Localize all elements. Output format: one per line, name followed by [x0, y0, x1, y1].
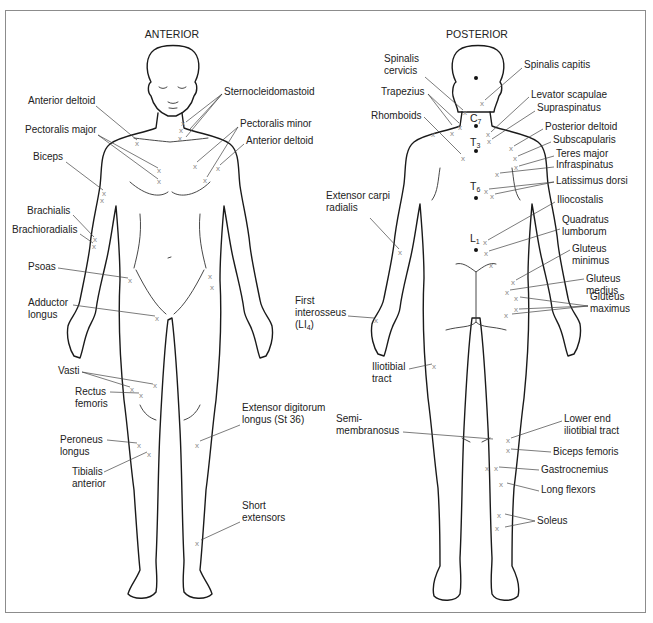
vertebra-label: L1	[470, 232, 480, 245]
muscle-label-text: Pectoralis minor	[240, 118, 312, 129]
trigger-point-mark: x	[203, 176, 207, 185]
muscle-label-text: Biceps	[33, 151, 63, 162]
muscle-label-text: Iliotibial	[372, 361, 405, 372]
leader-line	[511, 421, 562, 438]
trigger-point-mark: x	[458, 123, 462, 132]
muscle-label-text: Spinalis capitis	[524, 59, 590, 70]
label-anterior-deltoid-right: Anterior deltoidx	[216, 135, 313, 173]
leader-line	[409, 364, 432, 369]
leader-line	[186, 94, 222, 137]
muscle-label-text: Teres major	[556, 148, 609, 159]
leader-line	[96, 106, 137, 140]
leader-line	[428, 94, 452, 125]
trigger-point-mark: x	[483, 238, 487, 247]
leader-line	[505, 514, 535, 521]
leader-line	[512, 306, 588, 314]
muscle-label-text: Infraspinatus	[556, 159, 613, 170]
muscle-label-text: (LI4)	[295, 319, 314, 331]
leader-line	[200, 425, 240, 441]
trigger-point-mark: x	[514, 163, 518, 172]
muscle-label-text: Semi-	[336, 413, 362, 424]
muscle-label-text: longus	[28, 309, 57, 320]
trigger-point-mark: x	[155, 314, 159, 323]
label-vasti: Vastixx	[58, 365, 157, 394]
leader-line	[220, 144, 244, 165]
label-pectoralis-minor: Pectoralis minorxx	[193, 118, 312, 185]
trigger-point-mark: x	[509, 144, 513, 153]
leader-line	[518, 142, 551, 156]
trigger-point-mark: x	[374, 316, 378, 325]
trigger-point-mark: x	[195, 441, 199, 450]
vertebra-label: T6	[470, 180, 480, 193]
vertebra-label: C7	[470, 112, 482, 125]
trigger-point-mark: x	[216, 164, 220, 173]
trigger-point-mark: x	[157, 166, 161, 175]
label-soleus: Soleusxx	[495, 511, 568, 533]
leader-line	[489, 182, 554, 189]
leader-line	[197, 127, 238, 162]
vertebra-dot	[474, 196, 478, 200]
muscle-label-text: anterior	[72, 478, 107, 489]
muscle-label-text: minimus	[572, 255, 609, 266]
muscle-label-text: Rectus	[75, 386, 106, 397]
label-gastrocnemius: Gastrocnemiusxx	[485, 464, 608, 475]
leader-line	[58, 268, 128, 278]
leader-line	[507, 483, 539, 491]
label-brachioradialis: Brachioradialisx	[12, 224, 96, 251]
label-psoas: Psoasx	[28, 261, 132, 285]
trigger-point-mark: x	[514, 294, 518, 303]
muscle-label-text: extensors	[242, 512, 285, 523]
trigger-point-mark: x	[137, 441, 141, 450]
leader-line	[403, 432, 493, 439]
trigger-point-mark: x	[139, 391, 143, 400]
trigger-point-mark: x	[495, 524, 499, 533]
muscle-label-text: Anterior deltoid	[246, 135, 313, 146]
muscle-label-text: Spinalis	[384, 53, 419, 64]
muscle-label-text: membranosus	[336, 425, 399, 436]
muscle-label-text: Trapezius	[381, 86, 425, 97]
trigger-point-mark: x	[178, 134, 182, 143]
muscle-label-text: Peroneus	[60, 434, 103, 445]
vertebra-dot	[474, 124, 478, 128]
label-first-interosseus: Firstinterosseus(LI4)x	[295, 295, 378, 331]
leader-line	[82, 372, 153, 384]
leader-line	[519, 156, 554, 166]
muscle-label-text: lumborum	[562, 226, 606, 237]
muscle-label-text: Tibialis	[72, 466, 103, 477]
trigger-point-mark: x	[147, 450, 151, 459]
muscle-label-text: Extensor digitorum	[242, 402, 325, 413]
muscle-label-text: Gluteus	[590, 291, 624, 302]
label-extensor-carpi-radialis: Extensor carpiradialisx	[326, 190, 402, 257]
leader-line	[66, 162, 103, 190]
label-semimembranosus: Semi-membranosus	[336, 413, 493, 439]
trigger-point-mark: x	[135, 139, 139, 148]
leader-line	[107, 440, 137, 443]
leader-line	[73, 305, 155, 316]
muscle-label-text: Short	[242, 500, 266, 511]
leader-line	[425, 77, 463, 110]
muscle-label-text: Pectoralis major	[25, 124, 97, 135]
trigger-point-mark: x	[480, 99, 484, 108]
muscle-label-text: Brachialis	[27, 205, 70, 216]
muscle-label-text: Adductor	[28, 297, 69, 308]
trigger-point-mark: x	[497, 511, 501, 520]
trigger-point-mark: x	[511, 278, 515, 287]
trigger-point-mark: x	[92, 242, 96, 251]
trigger-point-mark: x	[431, 130, 435, 139]
trigger-point-mark: x	[505, 288, 509, 297]
muscle-label-text: Levator scapulae	[531, 89, 608, 100]
muscle-label-text: Supraspinatus	[537, 102, 601, 113]
posterior-title: POSTERIOR	[446, 28, 508, 40]
label-short-extensors: Shortextensorsx	[195, 500, 285, 548]
trigger-point-mark: x	[153, 381, 157, 390]
muscle-label-text: Biceps femoris	[553, 446, 619, 457]
muscle-label-text: Soleus	[537, 515, 568, 526]
trigger-point-mark: x	[128, 276, 132, 285]
trigger-point-mark: x	[484, 249, 488, 258]
leader-line	[110, 392, 139, 393]
trigger-point-mark: x	[450, 129, 454, 138]
muscle-label-text: Long flexors	[541, 484, 595, 495]
trigger-point-mark: x	[506, 446, 510, 455]
trigger-point-mark: x	[495, 170, 499, 179]
muscle-label-text: Latissimus dorsi	[556, 175, 628, 186]
